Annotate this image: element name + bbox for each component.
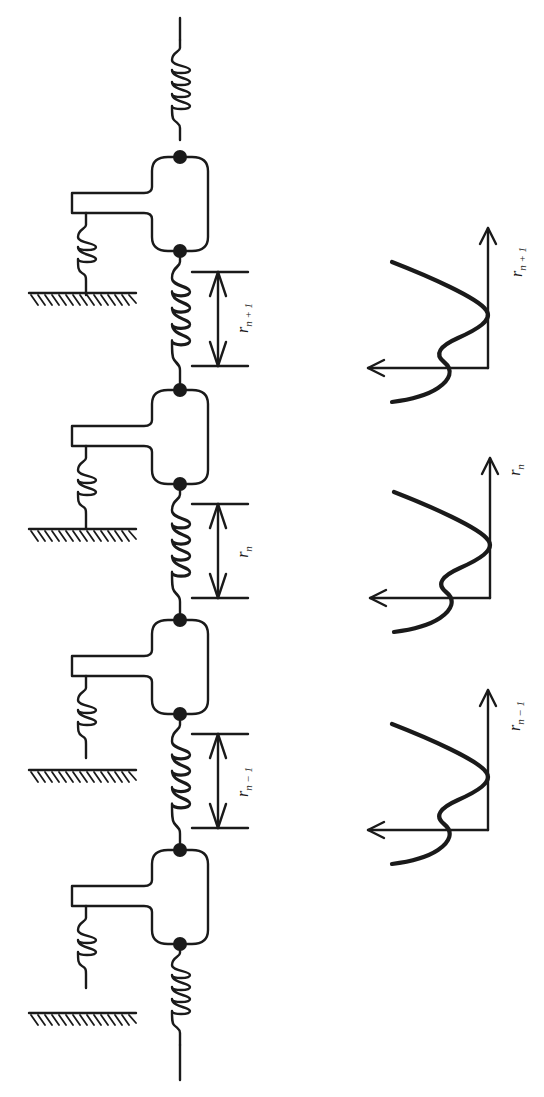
chain-spring-2-3 <box>172 484 190 618</box>
bond-label-r-n-plus-1: rn + 1 <box>234 303 254 333</box>
dimension-arrow-r-n-minus-1 <box>192 734 248 828</box>
ground-spring-3 <box>78 676 96 758</box>
svg-text:rn − 1: rn − 1 <box>506 701 526 731</box>
ground-2 <box>29 529 136 541</box>
svg-text:rn + 1: rn + 1 <box>508 247 528 277</box>
svg-text:rn: rn <box>506 464 526 476</box>
chain-spring-1-2 <box>172 251 190 387</box>
bond-label-r-n: rn <box>234 546 254 558</box>
potential-plot-r-n <box>370 458 498 632</box>
potential-axis-label-r-n-minus-1: rn − 1 <box>506 701 526 731</box>
svg-text:rn − 1: rn − 1 <box>234 767 254 797</box>
mass-4 <box>72 843 208 951</box>
potential-plot-r-n-plus-1 <box>368 228 496 402</box>
chain-spring-3-4 <box>172 714 190 850</box>
mass-spring-chain-diagram: rn + 1 rn rn − 1 <box>0 0 544 1097</box>
dimension-arrow-r-n-plus-1 <box>192 272 248 366</box>
mass-3 <box>72 613 208 721</box>
potential-plot-r-n-minus-1 <box>368 690 496 864</box>
ground-spring-2 <box>78 446 96 528</box>
ground-spring-4 <box>78 906 96 988</box>
mass-1 <box>72 150 208 258</box>
potential-axis-label-r-n-plus-1: rn + 1 <box>508 247 528 277</box>
ground-spring-1 <box>78 213 96 295</box>
bond-label-r-n-minus-1: rn − 1 <box>234 767 254 797</box>
ground-4 <box>29 1013 136 1025</box>
chain-spring-bottom <box>172 945 190 1045</box>
ground-3 <box>29 770 136 782</box>
chain-spring-top <box>172 40 190 140</box>
svg-text:rn: rn <box>234 546 254 558</box>
dimension-arrow-r-n <box>192 504 248 598</box>
potential-axis-label-r-n: rn <box>506 464 526 476</box>
mass-2 <box>72 383 208 491</box>
ground-1 <box>29 293 136 305</box>
svg-text:rn + 1: rn + 1 <box>234 303 254 333</box>
